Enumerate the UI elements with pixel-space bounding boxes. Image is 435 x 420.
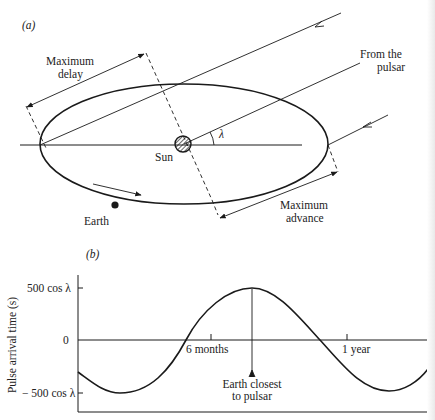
- x-tick-label-1-year: 1 year: [342, 343, 371, 356]
- annotation-label-1: Earth closest: [222, 378, 282, 390]
- pulsar-ray-upper: [40, 13, 341, 145]
- page-edge-shadow: [427, 0, 435, 420]
- lambda-angle-arc: [210, 132, 214, 145]
- panel-a-label: (a): [22, 19, 36, 32]
- panel-b-label: (b): [86, 248, 100, 261]
- max-advance-label-2: advance: [286, 212, 324, 224]
- pulsar-ray-lower: [328, 115, 388, 145]
- ray-arrowhead-icon: [363, 122, 372, 127]
- from-pulsar-label-2: pulsar: [377, 61, 405, 74]
- y-tick-label-min: − 500 cos λ: [22, 387, 76, 399]
- max-delay-label-2: delay: [58, 68, 83, 81]
- y-tick-label-zero: 0: [63, 334, 69, 346]
- closest-approach-arrowhead-icon: [249, 370, 255, 377]
- earth-icon: [111, 201, 118, 208]
- y-tick-label-max: 500 cos λ: [27, 282, 71, 294]
- sun-label: Sun: [155, 151, 173, 163]
- panel-a: (a) Maximum delay Maximum advance From t…: [20, 13, 405, 227]
- advance-dashed-right: [328, 145, 338, 172]
- max-advance-label-1: Maximum: [280, 199, 328, 211]
- earth-label: Earth: [84, 215, 109, 227]
- delay-dashed-left: [26, 106, 46, 148]
- lambda-label: λ: [218, 128, 224, 140]
- sun-perpendicular-dashed: [146, 53, 212, 200]
- from-pulsar-label-1: From the: [360, 48, 402, 60]
- y-axis-label: Pulse arrival time (s): [6, 297, 19, 393]
- panel-b: (b) Pulse arrival time (s) 500 cos λ 0 −…: [6, 248, 428, 412]
- x-tick-label-6-months: 6 months: [186, 343, 229, 355]
- sun-icon: [175, 136, 191, 152]
- max-delay-label-1: Maximum: [46, 55, 94, 67]
- annotation-label-2: to pulsar: [232, 390, 272, 403]
- figure: (a) Maximum delay Maximum advance From t…: [0, 0, 435, 420]
